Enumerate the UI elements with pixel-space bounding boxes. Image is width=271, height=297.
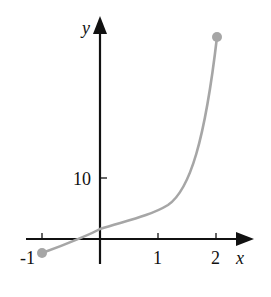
- x-axis-label: x: [235, 248, 244, 268]
- x-axis-arrow-icon: [236, 232, 254, 246]
- x-tick-label-2: 2: [211, 248, 220, 268]
- y-tick-label-10: 10: [73, 169, 91, 189]
- x-tick-label-neg1: -1: [20, 248, 35, 268]
- y-axis-arrow-icon: [93, 16, 107, 34]
- y-axis-label: y: [80, 18, 90, 38]
- function-graph: -1 1 2 x 10 y: [0, 0, 271, 297]
- left-endpoint-dot: [37, 248, 47, 258]
- function-curve: [42, 37, 217, 253]
- x-tick-label-1: 1: [153, 248, 162, 268]
- right-endpoint-dot: [212, 32, 222, 42]
